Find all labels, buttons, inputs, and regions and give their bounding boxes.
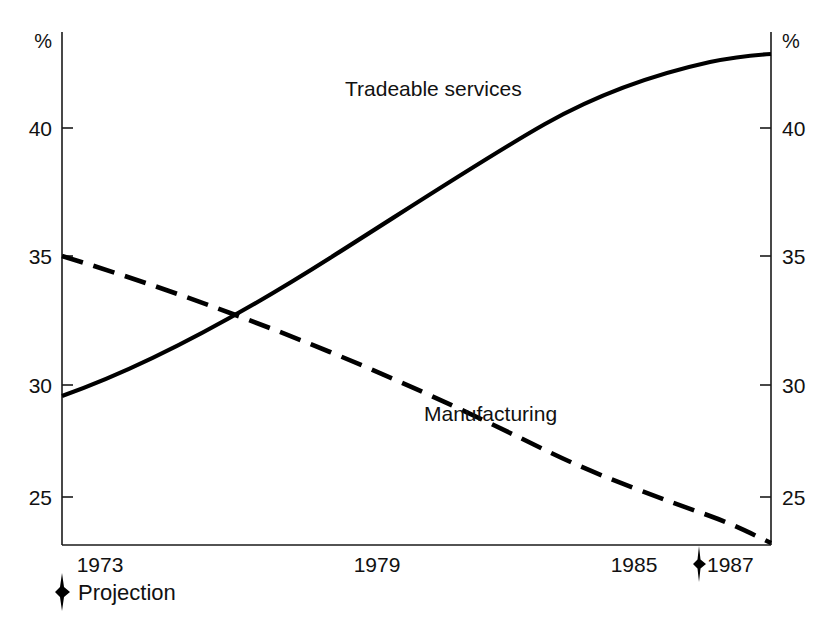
left-axis-tick-labels: % 40 35 30 25 [29, 30, 53, 509]
right-tick-label-25: 25 [782, 486, 805, 509]
left-tick-label-30: 30 [29, 374, 52, 397]
right-tick-label-35: 35 [782, 245, 805, 268]
left-tick-label-35: 35 [29, 245, 52, 268]
right-axis-tick-labels: % 40 35 30 25 [782, 30, 805, 509]
projection-legend-label: Projection [78, 580, 176, 605]
left-axis-ticks [62, 128, 73, 497]
line-chart-canvas: % 40 35 30 25 % 40 35 30 25 Tradeable se… [0, 0, 829, 621]
series-label-manufacturing: Manufacturing [424, 402, 557, 425]
diamond-marker-icon [55, 573, 70, 611]
right-tick-label-30: 30 [782, 374, 805, 397]
series-group [62, 54, 771, 543]
x-tick-label-1979: 1979 [354, 553, 401, 576]
right-tick-label-40: 40 [782, 117, 805, 140]
left-tick-label-40: 40 [29, 117, 52, 140]
left-axis-unit-label: % [34, 30, 52, 52]
series-tradeable-services-line [62, 54, 771, 396]
x-tick-label-1985: 1985 [611, 553, 658, 576]
left-tick-label-25: 25 [29, 486, 52, 509]
x-axis-tick-labels: 1973 1979 1985 1987 [77, 546, 754, 582]
x-tick-label-1973: 1973 [77, 553, 124, 576]
series-manufacturing-line [62, 256, 771, 543]
series-label-tradeable-services: Tradeable services [345, 77, 522, 100]
diamond-marker-1987 [693, 546, 706, 582]
x-tick-label-1987: 1987 [707, 553, 754, 576]
right-axis-unit-label: % [782, 30, 800, 52]
projection-legend: Projection [55, 573, 176, 611]
chart-figure: % 40 35 30 25 % 40 35 30 25 Tradeable se… [0, 0, 829, 621]
right-axis-ticks [760, 128, 771, 497]
